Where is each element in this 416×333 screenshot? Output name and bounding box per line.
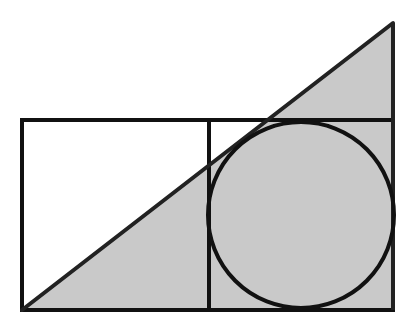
diagram-svg	[0, 0, 416, 333]
geometry-diagram	[0, 0, 416, 333]
